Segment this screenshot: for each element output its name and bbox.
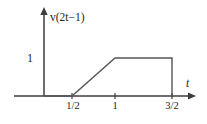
signal-expression-label: v(2t−1) [50, 12, 85, 24]
signal-plot-figure: v(2t−1) 1 t 1/2 1 3/2 [0, 0, 207, 124]
tick-label-half: 1/2 [60, 101, 86, 112]
signal-waveform-path [44, 58, 172, 96]
horizontal-axis-arrow-icon [188, 92, 196, 99]
tick-label-one: 1 [104, 101, 126, 112]
tick-label-three-halves: 3/2 [159, 101, 185, 112]
vertical-axis-arrow-icon [40, 7, 47, 15]
time-axis-label: t [186, 78, 189, 90]
amplitude-label: 1 [27, 52, 33, 64]
